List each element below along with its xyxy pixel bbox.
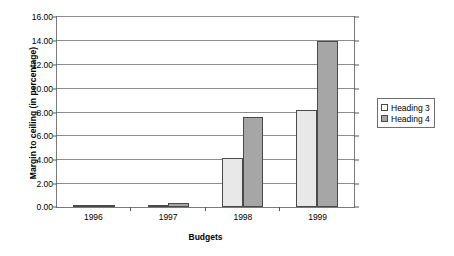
legend-item[interactable]: Heading 4 bbox=[381, 113, 430, 124]
legend-swatch-icon bbox=[381, 115, 388, 122]
y-tick-mark-right bbox=[354, 184, 359, 185]
y-tick-label: 14.00 bbox=[32, 36, 53, 46]
bar-pair bbox=[148, 16, 190, 207]
plot-area: 16.0014.0012.0010.008.006.004.002.000.00 bbox=[56, 16, 355, 208]
legend: Heading 3 Heading 4 bbox=[377, 98, 435, 128]
y-tick-mark-right bbox=[354, 88, 359, 89]
x-tick-mark bbox=[279, 207, 280, 211]
bar-pair bbox=[296, 16, 338, 207]
bar-group bbox=[57, 16, 131, 207]
y-tick-label: 10.00 bbox=[32, 84, 53, 94]
bar[interactable] bbox=[94, 205, 115, 207]
bar-group bbox=[206, 16, 280, 207]
x-axis-title: Budgets bbox=[56, 232, 355, 242]
bar[interactable] bbox=[296, 110, 317, 207]
bar[interactable] bbox=[73, 205, 94, 207]
bar-group bbox=[131, 16, 205, 207]
bar[interactable] bbox=[222, 158, 243, 207]
y-tick-mark-right bbox=[354, 112, 359, 113]
bar[interactable] bbox=[243, 117, 264, 207]
y-tick-mark-right bbox=[354, 136, 359, 137]
y-tick-label: 6.00 bbox=[36, 131, 53, 141]
legend-label: Heading 4 bbox=[391, 114, 430, 124]
y-tick-label: 4.00 bbox=[36, 155, 53, 165]
y-tick-mark-right bbox=[354, 160, 359, 161]
bar[interactable] bbox=[148, 205, 169, 207]
x-tick-mark bbox=[205, 207, 206, 211]
y-tick-mark-right bbox=[354, 64, 359, 65]
bar-group bbox=[280, 16, 354, 207]
bar[interactable] bbox=[317, 41, 338, 207]
legend-swatch-icon bbox=[381, 104, 388, 111]
y-tick-label: 8.00 bbox=[36, 108, 53, 118]
x-tick-label: 1999 bbox=[280, 212, 355, 222]
legend-item[interactable]: Heading 3 bbox=[381, 102, 430, 113]
x-tick-mark bbox=[130, 207, 131, 211]
x-axis-tick-labels: 1996199719981999 bbox=[56, 212, 355, 222]
x-tick-label: 1996 bbox=[56, 212, 131, 222]
bar[interactable] bbox=[168, 203, 189, 207]
y-tick-label: 12.00 bbox=[32, 60, 53, 70]
bar-pair bbox=[73, 16, 115, 207]
y-tick-label: 16.00 bbox=[32, 12, 53, 22]
legend-label: Heading 3 bbox=[391, 103, 430, 113]
bar-chart: Margin to ceiling (in percentage) 16.001… bbox=[0, 0, 454, 256]
bar-groups bbox=[57, 16, 354, 207]
y-tick-mark-right bbox=[354, 207, 359, 208]
y-tick-mark-right bbox=[354, 17, 359, 18]
bar-pair bbox=[222, 16, 264, 207]
y-tick-label: 0.00 bbox=[36, 202, 53, 212]
x-tick-label: 1997 bbox=[131, 212, 206, 222]
x-tick-label: 1998 bbox=[206, 212, 281, 222]
y-tick-label: 2.00 bbox=[36, 179, 53, 189]
y-tick-mark-right bbox=[354, 40, 359, 41]
